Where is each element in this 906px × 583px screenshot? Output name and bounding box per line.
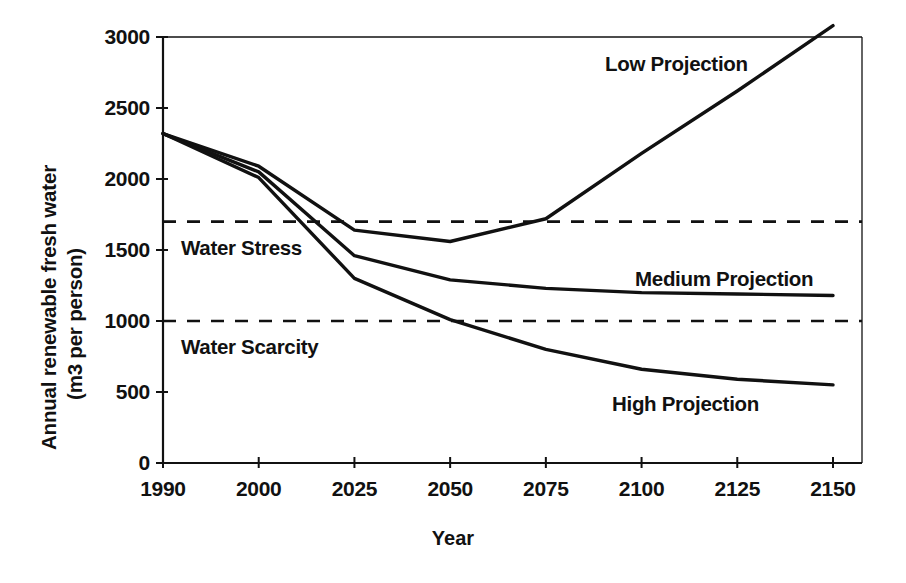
water-stress-label: Water Stress [181, 236, 302, 260]
x-axis-tick-labels: 19902000202520502075210021252150 [0, 477, 906, 511]
x-axis-tick-label: 2150 [810, 477, 856, 501]
y-axis-tick-label: 3000 [88, 26, 150, 47]
y-axis-tick-label: 2500 [88, 97, 150, 118]
x-axis-tick-label: 2125 [715, 477, 761, 501]
y-axis-tick-labels: 050010001500200025003000 [88, 0, 150, 500]
x-axis-tick-label: 2075 [523, 477, 569, 501]
series-lines [163, 26, 833, 385]
y-axis-tick-label: 0 [88, 452, 150, 473]
y-axis-tick-label: 500 [88, 381, 150, 402]
y-axis-tick-label: 1000 [88, 310, 150, 331]
x-axis-tick-label: 1990 [140, 477, 186, 501]
x-axis-title: Year [0, 527, 906, 550]
medium-projection-label: Medium Projection [635, 267, 813, 291]
low-projection-label: Low Projection [605, 52, 748, 76]
y-axis-title: Annual renewable fresh water (m3 per per… [0, 0, 96, 500]
y-axis-tick-label: 1500 [88, 239, 150, 260]
y-axis-title-line-2: (m3 per person) [63, 248, 87, 400]
x-axis-tick-label: 2100 [619, 477, 665, 501]
water-scarcity-label: Water Scarcity [181, 335, 318, 359]
high-projection-label: High Projection [612, 392, 759, 416]
x-axis-tick-label: 2025 [332, 477, 378, 501]
y-axis-title-line-1: Annual renewable fresh water [37, 165, 61, 450]
x-axis-tick-label: 2000 [236, 477, 282, 501]
y-axis-tick-label: 2000 [88, 168, 150, 189]
chart-figure: Annual renewable fresh water (m3 per per… [0, 0, 906, 583]
x-axis-tick-label: 2050 [427, 477, 473, 501]
